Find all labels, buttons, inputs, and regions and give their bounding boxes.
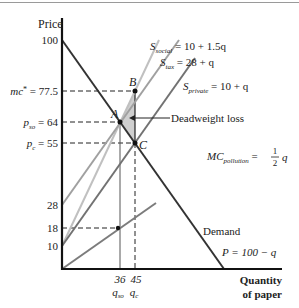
mc-pollution-frac-num: 1 <box>273 146 278 156</box>
point-b-label: B <box>129 75 137 89</box>
y-axis-label: Price <box>38 17 63 31</box>
point-c-label: C <box>139 138 148 152</box>
s-private-label: Sprivate = 10 + q <box>183 80 249 95</box>
mc-pollution-q: q <box>282 151 288 163</box>
y-tick-pso: pso = 64 <box>23 116 59 131</box>
demand-equation: P = 100 − q <box>221 246 277 258</box>
demand-label: Demand <box>203 225 241 237</box>
mc-pollution-curve <box>62 203 156 269</box>
x-tick-qso: qso <box>112 286 124 300</box>
y-tick-100: 100 <box>42 34 59 46</box>
x-tick-45: 45 <box>131 273 143 285</box>
y-tick-18: 18 <box>47 222 59 234</box>
point-mc-pollution <box>116 226 120 230</box>
s-social-label: Ssocial = 10 + 1.5q <box>150 40 226 55</box>
y-tick-28: 28 <box>47 199 59 211</box>
x-axis-label-line2: of paper <box>243 288 283 300</box>
chart: Price 100 mc* = 77.5 pso = 64 pc = 55 28… <box>0 0 299 308</box>
x-tick-qc: qc <box>130 286 140 300</box>
x-tick-36: 36 <box>114 273 127 285</box>
mc-pollution-label: MCpollution = <box>206 150 258 165</box>
point-a-label: A <box>110 107 119 121</box>
point-c <box>133 141 138 146</box>
y-tick-mc: mc* = 77.5 <box>10 85 58 97</box>
deadweight-loss-label: Deadweight loss <box>171 112 244 124</box>
x-axis-label-line1: Quantity <box>240 274 283 286</box>
point-b <box>133 89 138 94</box>
y-tick-pc: pc = 55 <box>26 137 59 152</box>
y-tick-10: 10 <box>47 240 59 252</box>
mc-pollution-frac-den: 2 <box>273 158 278 168</box>
